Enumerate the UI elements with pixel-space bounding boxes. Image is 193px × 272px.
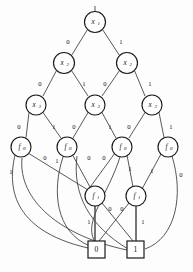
node-x3c[interactable]: x 3 — [142, 95, 162, 115]
node-circle-x2b[interactable] — [117, 53, 138, 74]
terminal-1[interactable]: 1 — [127, 241, 144, 258]
node-circle-x3c[interactable] — [142, 95, 162, 115]
node-circle-f1a[interactable] — [85, 186, 105, 206]
edge-label-x3c-f0c: 0 — [127, 123, 131, 130]
node-x3a[interactable]: x 3 — [26, 95, 46, 115]
node-f1a[interactable]: f 1 — [85, 186, 105, 206]
node-circle-x1[interactable] — [85, 12, 106, 33]
node-circle-x2a[interactable] — [54, 53, 75, 74]
edge-label-x1-x2b: 1 — [119, 38, 122, 45]
node-sub-x1: 1 — [98, 21, 101, 26]
node-x2b[interactable]: x 2 — [117, 53, 138, 74]
edge-label-f0d-f1b: 1 — [150, 167, 153, 174]
node-sub-f1b: 1 — [138, 195, 141, 200]
edge-x3a-f0a[interactable] — [26, 113, 29, 138]
node-f0c[interactable]: f 0 — [112, 137, 132, 157]
node-circle-f0b[interactable] — [57, 137, 77, 157]
edge-f0b-term0[interactable] — [57, 157, 90, 246]
edge-label-f1b-term1: 1 — [141, 218, 144, 225]
edge-label-x3a-f0a: 0 — [17, 123, 21, 130]
node-x3b[interactable]: x 3 — [85, 95, 105, 115]
terminal-label-1: 1 — [134, 245, 138, 254]
node-circle-f0a[interactable] — [11, 137, 31, 157]
edge-label-x3c-f0d: 1 — [169, 123, 172, 130]
edge-label-f1a-term1: 0 — [108, 205, 112, 212]
edge-x3c-f0d[interactable] — [159, 113, 164, 138]
node-sub-f1a: 1 — [97, 195, 100, 200]
bdd-diagram: terminal 0 --> terminal 0 --> terminal 0… — [0, 0, 193, 272]
edge-label-f1b-term0: 0 — [120, 205, 124, 212]
edge-label-x1-x2a: 0 — [66, 38, 70, 45]
edge-label-f0b-term0: 0 — [87, 154, 91, 161]
edge-x2b-x3c[interactable] — [135, 71, 146, 97]
edge-label-x2a-x3a: 0 — [38, 80, 42, 87]
edge-x1-x2b[interactable] — [103, 30, 120, 56]
node-f1b[interactable]: f 1 — [126, 186, 146, 206]
edge-label-f0c-term0: 1 — [128, 165, 131, 172]
edge-f1b-term0[interactable] — [99, 203, 129, 241]
terminal-0[interactable]: 0 — [88, 241, 105, 258]
edge-label-x3b-f0c: 1 — [108, 123, 111, 130]
node-circle-x3b[interactable] — [85, 95, 105, 115]
edge-label-f0c-f1b: 0 — [102, 154, 106, 161]
edge-x2a-x3a[interactable] — [43, 71, 57, 97]
node-f0b[interactable]: f 0 — [57, 137, 77, 157]
f1-to-terminal-edges — [95, 203, 136, 241]
terminal-label-0: 0 — [95, 245, 99, 254]
edge-f1a-term1[interactable] — [102, 203, 133, 241]
edge-label-x2b-x3b: 0 — [103, 80, 107, 87]
node-x2a[interactable]: x 2 — [54, 53, 75, 74]
edge-label-f0d-term1: 0 — [179, 171, 183, 178]
edge-label-x3b-f0b: 0 — [72, 123, 76, 130]
edge-label-x2b-x3c: 1 — [148, 80, 151, 87]
edge-label-x2a-x3b: 1 — [82, 80, 85, 87]
bdd-canvas: terminal 0 --> terminal 0 --> terminal 0… — [0, 0, 193, 272]
edge-x3c-f0c[interactable] — [129, 113, 145, 139]
node-f0d[interactable]: f 0 — [158, 137, 178, 157]
node-circle-f0c[interactable] — [112, 137, 132, 157]
node-f0a[interactable]: f 0 — [11, 137, 31, 157]
edge-label-x3a-f0b: 1 — [52, 123, 55, 130]
edge-f0a-term0[interactable] — [12, 155, 88, 248]
edge-label-f1a-term0: 1 — [87, 218, 90, 225]
edge-label-f0a-term0: 1 — [9, 168, 12, 175]
edge-label-f0b-f1a: 1 — [55, 157, 58, 164]
node-x1[interactable]: x 1 — [85, 12, 106, 33]
f0-to-f1-edges — [28, 153, 161, 190]
node-circle-f1b[interactable] — [126, 186, 146, 206]
edge-x1-x2a[interactable] — [72, 30, 88, 56]
node-circle-f0d[interactable] — [158, 137, 178, 157]
edge-label-f0a-f1a: 0 — [43, 154, 47, 161]
node-circle-x3a[interactable] — [26, 95, 46, 115]
